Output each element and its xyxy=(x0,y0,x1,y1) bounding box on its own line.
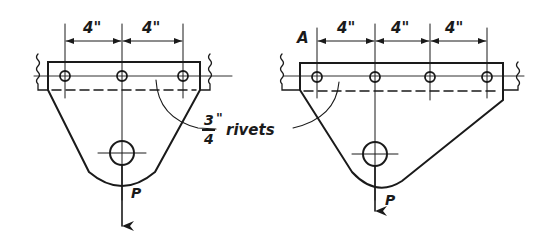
right-dimension-label-3: 4" xyxy=(445,21,463,36)
right-load-label: P xyxy=(385,193,395,207)
fraction-denominator: 4 xyxy=(204,132,214,146)
rivet-callout: 3 4 " rivets xyxy=(202,111,302,151)
right-dimension-label-2: 4" xyxy=(391,21,409,36)
corner-point-label: A xyxy=(297,31,309,46)
right-rivets xyxy=(312,72,492,82)
left-load-label: P xyxy=(131,186,141,200)
left-dimension-label-1: 4" xyxy=(83,21,101,36)
fraction-numerator: 3 xyxy=(204,113,214,127)
right-gusset-plate xyxy=(300,63,503,188)
left-dimension-label-2: 4" xyxy=(142,21,160,36)
right-dimension-label-1: 4" xyxy=(337,21,355,36)
inch-mark: " xyxy=(216,111,223,124)
rivets-label: rivets xyxy=(226,123,275,138)
right-bracket-figure xyxy=(281,24,525,211)
